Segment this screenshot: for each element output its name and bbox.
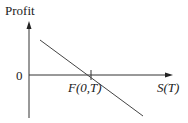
y-axis-arrowhead-icon [27,21,32,29]
y-axis [27,21,32,118]
x-axis [29,73,173,78]
payoff-diagram: Profit 0 F(0,T) S(T) [0,0,188,123]
diagram-canvas [0,0,188,123]
forward-price-label: F(0,T) [68,81,102,94]
profit-line [40,40,143,116]
x-axis-label: S(T) [157,81,179,94]
x-axis-arrowhead-icon [165,73,173,78]
origin-label: 0 [16,69,23,82]
y-axis-label: Profit [5,4,35,17]
